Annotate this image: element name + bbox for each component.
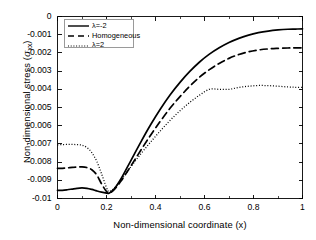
x-tick-label-4: 0.8	[234, 202, 274, 212]
y-tick-label-6: -0.006	[0, 120, 52, 130]
y-tick-label-5: -0.005	[0, 102, 52, 112]
legend-label-lambda-2: λ=2	[92, 41, 104, 50]
x-tick-label-1: 0.2	[87, 202, 127, 212]
legend-key-dashed	[68, 32, 89, 40]
y-tick-label-4: -0.004	[0, 83, 52, 93]
x-tick-label-0: 0	[38, 202, 78, 212]
legend-key-solid	[68, 22, 89, 30]
x-tick-label-2: 0.4	[136, 202, 176, 212]
series-line-2	[58, 85, 303, 191]
y-tick-label-7: -0.007	[0, 138, 52, 148]
legend: λ=-2 Homogeneous λ=2	[64, 19, 134, 48]
legend-entry-lambda-2: λ=2	[68, 41, 133, 50]
y-tick-label-8: -0.008	[0, 156, 52, 166]
legend-key-dotted	[68, 42, 89, 50]
legend-entry-lambda-neg2: λ=-2	[68, 22, 133, 31]
y-tick-label-0: 0	[0, 11, 52, 21]
x-tick-label-5: 1	[283, 202, 316, 212]
y-tick-label-1: -0.001	[0, 29, 52, 39]
y-tick-label-2: -0.002	[0, 47, 52, 57]
y-tick-label-9: -0.009	[0, 174, 52, 184]
stress-plot-figure: Non-dimensional stress (σxx) Non-dimensi…	[0, 0, 315, 240]
legend-label-lambda-neg2: λ=-2	[92, 22, 107, 31]
x-tick-label-3: 0.6	[185, 202, 225, 212]
legend-entry-homogeneous: Homogeneous	[68, 32, 133, 41]
y-tick-label-3: -0.003	[0, 65, 52, 75]
y-axis-label-suffix: )	[21, 40, 32, 43]
series-line-1	[58, 48, 303, 193]
legend-label-homogeneous: Homogeneous	[92, 32, 140, 41]
x-axis-label: Non-dimensional coordinate (x)	[57, 219, 303, 230]
